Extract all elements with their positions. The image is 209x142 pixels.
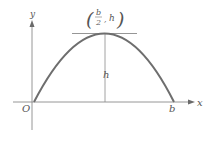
origin-label: O bbox=[22, 103, 30, 114]
x-axis-label: x bbox=[197, 97, 203, 108]
vertex-denominator: 2 bbox=[95, 18, 101, 27]
vertex-comma: , bbox=[104, 15, 107, 24]
parabola-curve bbox=[34, 34, 174, 103]
diagram-svg: y x O b h ( b 2 , h ) bbox=[0, 0, 209, 142]
root-b-label: b bbox=[169, 103, 175, 114]
parabola-diagram: y x O b h ( b 2 , h ) bbox=[0, 0, 209, 142]
vertex-y: h bbox=[109, 13, 115, 23]
vertex-numerator: b bbox=[96, 8, 101, 17]
vertex-label: ( b 2 , h ) bbox=[86, 8, 124, 30]
vertex-open-paren: ( bbox=[86, 8, 94, 30]
y-axis-label: y bbox=[29, 9, 36, 19]
vertex-close-paren: ) bbox=[116, 8, 124, 30]
y-axis-arrow-icon bbox=[30, 20, 35, 27]
height-label: h bbox=[103, 69, 109, 80]
x-axis-arrow-icon bbox=[188, 100, 195, 105]
